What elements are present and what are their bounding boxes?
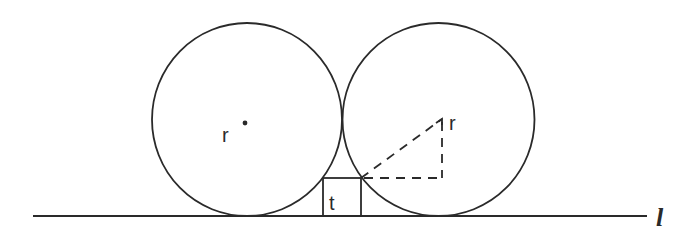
dashed-hypotenuse xyxy=(361,119,442,178)
square-side-label: t xyxy=(329,192,335,214)
left-radius-label: r xyxy=(222,124,229,146)
diagram-canvas: r r t l xyxy=(0,0,675,240)
center-marker xyxy=(436,119,442,125)
line-label: l xyxy=(656,203,664,232)
right-radius-label: r xyxy=(449,112,456,134)
left-circle xyxy=(152,23,342,216)
left-center-dot xyxy=(243,121,248,126)
right-circle xyxy=(343,23,535,216)
